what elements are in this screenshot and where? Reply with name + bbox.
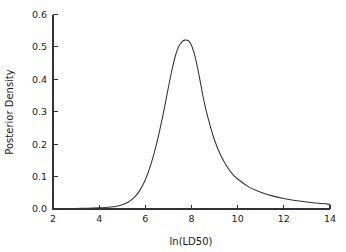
- y-tick-label: 0.4: [32, 74, 47, 85]
- y-tick-label: 0.5: [32, 41, 47, 52]
- y-tick-label: 0.6: [32, 9, 47, 20]
- density-curve: [53, 40, 330, 209]
- posterior-density-plot: 2468101214 0.00.10.20.30.40.50.6 ln(LD50…: [0, 0, 346, 252]
- plot-data: [53, 40, 330, 209]
- y-axis-title: Posterior Density: [4, 69, 15, 154]
- x-tick-label: 2: [50, 213, 56, 224]
- x-tick-label: 14: [324, 213, 336, 224]
- x-tick-label: 12: [278, 213, 290, 224]
- x-tick-label: 8: [188, 213, 194, 224]
- y-tick-labels: 0.00.10.20.30.40.50.6: [32, 9, 47, 215]
- x-tick-label: 6: [142, 213, 148, 224]
- x-axis-title: ln(LD50): [170, 236, 213, 247]
- y-tick-label: 0.0: [32, 203, 47, 214]
- y-tick-label: 0.3: [32, 106, 47, 117]
- y-tick-label: 0.2: [32, 139, 47, 150]
- y-tick-label: 0.1: [32, 171, 47, 182]
- chart-figure: 2468101214 0.00.10.20.30.40.50.6 ln(LD50…: [0, 0, 346, 252]
- plot-axes: [53, 15, 330, 210]
- x-tick-labels: 2468101214: [50, 213, 336, 224]
- x-tick-label: 10: [232, 213, 244, 224]
- axis-lines: [53, 15, 330, 210]
- x-tick-label: 4: [96, 213, 102, 224]
